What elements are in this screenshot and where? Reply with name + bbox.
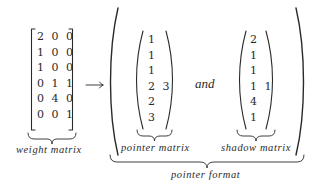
shadow-matrix-row: 2	[250, 32, 274, 48]
pointer-matrix-row: 2	[148, 94, 172, 110]
pointer-matrix-left-paren	[137, 31, 144, 129]
weight-matrix-row: 1 0 0	[37, 45, 69, 61]
shadow-matrix-label: shadow matrix	[221, 143, 291, 154]
pointer-matrix-row: 1	[148, 32, 172, 48]
weight-matrix-row: 0 1 1	[37, 76, 69, 92]
weight-matrix-label: weight matrix	[16, 145, 82, 156]
shadow-matrix-row: 1 1	[250, 79, 274, 95]
shadow-matrix-row: 1	[250, 63, 274, 79]
pointer-format-underbrace	[110, 155, 304, 168]
shadow-matrix-row: 4	[250, 94, 274, 110]
pointer-matrix-row: 3	[148, 110, 172, 126]
arrow-icon	[86, 82, 103, 88]
weight-matrix: 2 0 0 1 0 0 1 0 0 0 1 1 0 4 0 0 0 1	[37, 29, 69, 122]
pointer-format-right-paren	[296, 8, 304, 155]
weight-matrix-underbrace	[28, 133, 76, 144]
shadow-matrix: 2 1 1 1 1 4 1	[250, 32, 274, 125]
pointer-format-label: pointer format	[171, 170, 240, 181]
shadow-matrix-left-paren	[240, 31, 247, 129]
weight-matrix-row: 1 0 0	[37, 60, 69, 76]
pointer-matrix: 1 1 1 2 3 2 3	[148, 32, 172, 125]
pointer-matrix-underbrace	[137, 130, 172, 141]
weight-matrix-row: 2 0 0	[37, 29, 69, 45]
pointer-matrix-row: 1	[148, 48, 172, 64]
shadow-matrix-row: 1	[250, 110, 274, 126]
weight-matrix-left-bracket	[32, 29, 36, 130]
weight-matrix-row: 0 0 1	[37, 107, 69, 123]
and-connector: and	[195, 77, 215, 90]
pointer-matrix-row: 1	[148, 63, 172, 79]
shadow-matrix-underbrace	[237, 130, 275, 141]
pointer-format-left-paren	[111, 8, 119, 155]
weight-matrix-row: 0 4 0	[37, 91, 69, 107]
pointer-matrix-row: 2 3	[148, 79, 172, 95]
shadow-matrix-row: 1	[250, 48, 274, 64]
pointer-matrix-label: pointer matrix	[121, 143, 190, 154]
